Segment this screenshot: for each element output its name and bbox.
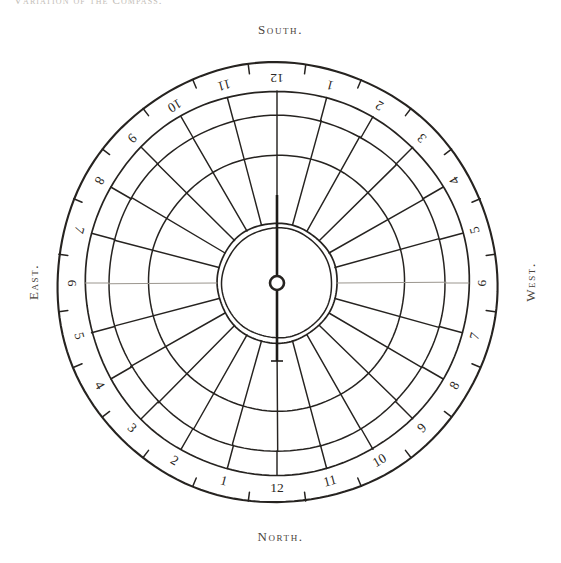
numeral-3: 3 [414,130,430,146]
tick-19 [74,199,82,202]
numeral-18: 6 [65,280,80,287]
tick-2 [405,108,410,115]
spoke-10 [307,335,360,428]
spoke-11 [293,341,321,446]
spoke-band-7 [439,326,462,332]
numeral-16: 4 [92,379,108,393]
spoke-4 [329,200,423,253]
spoke-band-2 [361,117,373,138]
tick-23 [248,65,249,74]
spoke-band-21 [141,147,158,164]
spoke-9 [319,325,396,400]
tick-6 [486,311,495,312]
tick-22 [193,80,196,88]
numeral-12: 12 [270,480,284,495]
spoke-6 [337,282,446,283]
numeral-10: 10 [370,450,389,470]
spoke-17 [116,299,219,326]
dial-spokes [85,91,469,475]
numeral-6: 6 [474,279,489,286]
numeral-5: 5 [466,225,482,236]
tick-21 [143,108,148,115]
spoke-15 [158,325,234,402]
numeral-23: 11 [216,76,232,94]
spoke-16 [131,313,225,366]
spoke-band-1 [320,98,326,121]
spoke-23 [234,121,261,225]
numeral-2: 2 [373,98,386,114]
numeral-4: 4 [446,174,462,188]
compass-dial: 121234567891011121234567891011 [0,0,561,563]
tick-17 [59,311,68,312]
compass-needle [270,195,284,361]
spoke-band-15 [141,402,158,419]
numeral-13: 1 [219,473,229,489]
spoke-band-10 [361,428,373,449]
tick-9 [405,450,410,457]
tick-1 [358,80,361,88]
tick-16 [74,364,82,367]
numeral-9: 9 [414,420,430,436]
spoke-13 [232,341,261,444]
numeral-14: 2 [168,452,181,468]
tick-14 [143,450,148,457]
numeral-7: 7 [467,331,483,342]
numeral-22: 10 [165,96,184,116]
spoke-band-19 [92,233,115,239]
spoke-8 [329,313,422,368]
spoke-band-9 [396,402,413,419]
spoke-band-5 [439,233,462,239]
spoke-band-4 [422,187,443,199]
spoke-band-23 [227,98,233,121]
spoke-band-8 [422,367,443,379]
numeral-8: 8 [446,378,462,392]
numeral-20: 8 [92,174,108,188]
spoke-2 [307,136,360,231]
numeral-1: 1 [325,77,335,93]
tick-13 [193,478,196,486]
spoke-14 [194,335,247,429]
spoke-band-13 [227,445,233,468]
spoke-3 [319,165,396,241]
needle-pivot-hub [270,276,284,290]
tick-0 [305,65,306,74]
tick-20 [102,149,109,154]
numeral-15: 3 [125,420,141,436]
numeral-11: 11 [322,472,338,490]
spoke-band-16 [111,367,132,379]
tick-8 [444,411,451,416]
spoke-21 [157,164,234,241]
spoke-1 [293,121,322,225]
spoke-19 [114,240,219,267]
spoke-band-14 [181,428,193,449]
numeral-17: 5 [71,331,87,342]
spoke-band-3 [396,147,413,164]
spoke-band-11 [320,445,326,468]
numeral-19: 7 [71,225,87,236]
numeral-21: 9 [124,131,140,147]
spoke-20 [133,198,226,253]
spoke-5 [335,239,438,268]
tick-5 [486,254,495,255]
tick-10 [358,478,361,486]
tick-15 [102,411,109,416]
spoke-18 [108,283,217,284]
spoke-7 [335,299,439,328]
tick-7 [472,364,480,367]
spoke-band-17 [92,326,115,332]
spoke-band-20 [111,187,132,199]
compass-dial-svg: 121234567891011121234567891011 [0,0,561,563]
numeral-0: 12 [270,71,284,86]
tick-3 [444,149,451,154]
spoke-band-22 [181,117,193,138]
spoke-22 [193,139,247,231]
